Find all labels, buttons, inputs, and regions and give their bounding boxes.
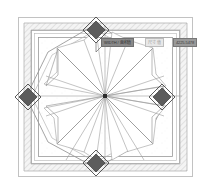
floor-plan-svg <box>0 0 211 191</box>
drawing-canvas: WIDTH / 面积值 尺寸 值 4225.5478 <box>0 0 211 191</box>
callout-field-text: 尺寸 值 <box>145 38 164 47</box>
callout-field-box[interactable]: 尺寸 值 <box>145 38 173 47</box>
callout-value-text: 4225.5478 <box>173 38 197 47</box>
center-marker <box>103 94 107 98</box>
callout-label-box[interactable]: WIDTH / 面积值 <box>101 38 145 47</box>
callout-value-box[interactable]: 4225.5478 <box>173 38 209 47</box>
callout-label-text: WIDTH / 面积值 <box>101 38 134 47</box>
